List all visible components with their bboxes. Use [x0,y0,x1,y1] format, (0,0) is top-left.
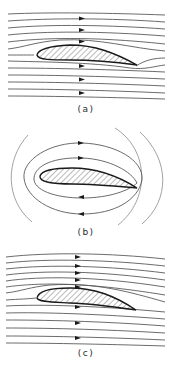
airfoil-flow-figure: (a) (b) (c) [0,0,172,374]
panel-b-label: (b) [66,227,106,237]
figure-canvas [0,0,172,374]
panel-c-label: (c) [66,348,106,358]
panel-a-label: (a) [66,104,106,114]
panel-b-airfoil [40,168,137,188]
